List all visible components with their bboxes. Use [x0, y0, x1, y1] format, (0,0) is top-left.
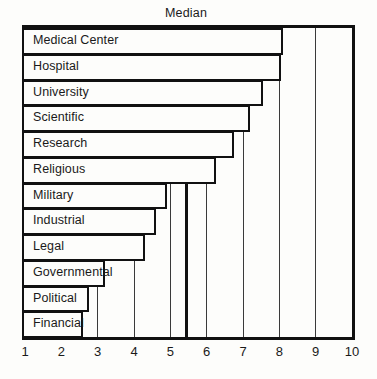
- bar-label: University: [33, 80, 89, 106]
- bar-row: Research: [25, 131, 352, 157]
- bar-row: Hospital: [25, 54, 352, 80]
- bar-row: Medical Center: [25, 28, 352, 54]
- x-tick-label-2: 2: [58, 344, 65, 359]
- bar-row: Governmental: [25, 260, 352, 286]
- bar-label: Financial: [33, 311, 84, 337]
- x-tick-label-6: 6: [203, 344, 210, 359]
- bar-label: Military: [33, 183, 73, 209]
- bar-row: Financial: [25, 311, 352, 337]
- x-tick-label-3: 3: [94, 344, 101, 359]
- x-axis-tick-labels: 12345678910: [0, 344, 377, 368]
- chart-page: Median Medical CenterHospitalUniversityS…: [0, 0, 377, 379]
- bar-row: University: [25, 80, 352, 106]
- x-tick-label-1: 1: [21, 344, 28, 359]
- bar-label: Scientific: [33, 105, 84, 131]
- bar-label: Medical Center: [33, 28, 118, 54]
- bar-label: Governmental: [33, 260, 113, 286]
- chart-title-text: Median: [165, 6, 207, 20]
- bar-row: Religious: [25, 157, 352, 183]
- bar-label: Hospital: [33, 54, 79, 80]
- bar-label: Religious: [33, 157, 85, 183]
- bar-row: Legal: [25, 234, 352, 260]
- bar-label: Industrial: [33, 208, 85, 234]
- x-tick-label-7: 7: [239, 344, 246, 359]
- bar-label: Research: [33, 131, 87, 157]
- bar-row: Scientific: [25, 105, 352, 131]
- bar-label: Political: [33, 286, 77, 312]
- plot-area: Medical CenterHospitalUniversityScientif…: [22, 25, 355, 340]
- bar-label: Legal: [33, 234, 64, 260]
- x-tick-label-5: 5: [167, 344, 174, 359]
- x-tick-label-9: 9: [312, 344, 319, 359]
- bar-row: Military: [25, 183, 352, 209]
- plot-inner: Medical CenterHospitalUniversityScientif…: [25, 28, 352, 337]
- bar-row: Political: [25, 286, 352, 312]
- x-tick-label-8: 8: [276, 344, 283, 359]
- x-tick-label-10: 10: [345, 344, 359, 359]
- bar-row: Industrial: [25, 208, 352, 234]
- x-tick-label-4: 4: [130, 344, 137, 359]
